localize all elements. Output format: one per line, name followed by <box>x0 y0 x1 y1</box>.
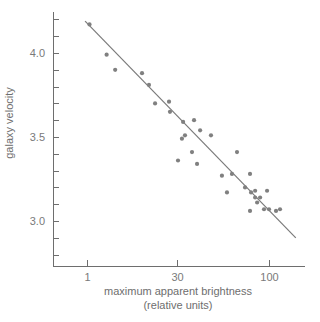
x-axis-label-units: (relative units) <box>143 299 212 311</box>
y-tick-label: 3.5 <box>30 131 45 143</box>
data-point <box>248 209 252 213</box>
x-axis-label: maximum apparent brightness <box>104 285 252 297</box>
y-axis-label: galaxy velocity <box>3 87 15 159</box>
data-points <box>87 22 282 213</box>
data-point <box>168 110 172 114</box>
data-point <box>198 128 202 132</box>
data-point <box>190 150 194 154</box>
data-point <box>265 189 269 193</box>
y-axis: 4.03.53.0 galaxy velocity <box>3 12 59 266</box>
data-point <box>249 190 253 194</box>
data-point <box>248 172 252 176</box>
data-point <box>243 185 247 189</box>
data-point <box>113 68 117 72</box>
data-point <box>192 118 196 122</box>
data-point <box>267 207 271 211</box>
x-axis-ticks <box>88 260 270 266</box>
data-point <box>181 120 185 124</box>
y-axis-tick-labels: 4.03.53.0 <box>30 47 45 227</box>
x-axis: 130100 maximum apparent brightness (rela… <box>53 260 305 311</box>
data-point <box>258 195 262 199</box>
y-tick-label: 3.0 <box>30 215 45 227</box>
x-tick-label: 1 <box>84 271 90 283</box>
data-point <box>220 174 224 178</box>
data-point <box>195 162 199 166</box>
x-tick-label: 100 <box>260 271 278 283</box>
regression-line <box>85 21 296 238</box>
data-point <box>183 133 187 137</box>
data-point <box>176 158 180 162</box>
data-point <box>255 200 259 204</box>
data-point <box>253 189 257 193</box>
y-tick-label: 4.0 <box>30 47 45 59</box>
data-point <box>167 100 171 104</box>
data-point <box>140 71 144 75</box>
data-point <box>253 195 257 199</box>
scatter-chart: 4.03.53.0 galaxy velocity 130100 maximum… <box>0 0 320 322</box>
data-point <box>209 133 213 137</box>
data-point <box>225 190 229 194</box>
data-point <box>262 207 266 211</box>
data-point <box>180 137 184 141</box>
data-point <box>87 22 91 26</box>
x-axis-tick-labels: 130100 <box>84 271 278 283</box>
data-point <box>274 209 278 213</box>
data-point <box>105 53 109 57</box>
data-point <box>278 207 282 211</box>
data-point <box>147 83 151 87</box>
data-point <box>153 101 157 105</box>
data-point <box>235 150 239 154</box>
data-point <box>230 172 234 176</box>
x-tick-label: 30 <box>171 271 183 283</box>
